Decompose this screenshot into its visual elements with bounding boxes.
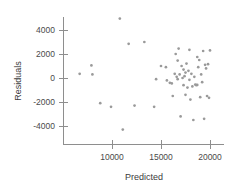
- data-point: [201, 81, 204, 84]
- y-tick-label: 0: [50, 73, 55, 83]
- data-point: [179, 115, 182, 118]
- data-point: [170, 82, 173, 85]
- data-point: [90, 64, 93, 67]
- data-point: [196, 84, 199, 87]
- x-tick-label: 10000: [100, 152, 124, 162]
- data-point: [174, 53, 177, 56]
- y-axis-title: Residuals: [13, 61, 23, 101]
- data-point: [197, 66, 200, 69]
- data-point: [171, 95, 174, 98]
- y-tick-label: -4000: [33, 121, 55, 131]
- data-point: [143, 41, 146, 44]
- scatter-chart: 400020000-2000-4000 100001500020000 Pred…: [0, 0, 233, 187]
- data-point: [165, 66, 168, 69]
- data-point: [153, 105, 156, 108]
- data-point: [182, 84, 185, 87]
- data-point: [121, 128, 124, 131]
- data-point: [191, 85, 194, 88]
- data-point: [208, 96, 211, 99]
- data-point: [133, 104, 136, 107]
- data-point: [192, 119, 195, 122]
- data-point: [187, 69, 190, 72]
- data-point: [110, 105, 113, 108]
- data-point: [209, 49, 212, 52]
- y-axis-ticks: 400020000-2000-4000: [33, 25, 68, 131]
- data-point: [200, 73, 203, 76]
- data-point: [188, 48, 191, 51]
- data-point: [177, 47, 180, 50]
- data-point: [160, 65, 163, 68]
- data-point: [186, 86, 189, 89]
- data-point: [202, 50, 205, 53]
- data-point: [184, 93, 187, 96]
- data-point: [178, 73, 181, 76]
- residual-plot: 400020000-2000-4000 100001500020000 Pred…: [0, 0, 233, 187]
- x-tick-label: 15000: [149, 152, 173, 162]
- data-point: [91, 73, 94, 76]
- data-point: [176, 78, 179, 81]
- data-point: [207, 63, 210, 66]
- data-point: [180, 65, 183, 68]
- y-tick-label: -2000: [33, 97, 55, 107]
- data-point: [183, 75, 186, 78]
- data-point: [118, 17, 121, 20]
- y-tick-label: 2000: [36, 49, 55, 59]
- data-point: [189, 98, 192, 101]
- y-tick-label: 4000: [36, 25, 55, 35]
- data-points: [78, 17, 211, 131]
- data-point: [127, 42, 130, 45]
- data-point: [185, 62, 188, 65]
- x-axis-title: Predicted: [125, 172, 163, 182]
- data-point: [173, 72, 176, 75]
- data-point: [182, 68, 185, 71]
- data-point: [190, 72, 193, 75]
- data-point: [193, 75, 196, 78]
- x-axis-ticks: 100001500020000: [100, 140, 222, 162]
- data-point: [203, 117, 206, 120]
- data-point: [78, 72, 81, 75]
- data-point: [198, 59, 201, 62]
- data-point: [155, 78, 158, 81]
- x-tick-label: 20000: [198, 152, 222, 162]
- data-point: [196, 56, 199, 59]
- data-point: [199, 96, 202, 99]
- data-point: [204, 63, 207, 66]
- data-point: [166, 79, 169, 82]
- data-point: [99, 102, 102, 105]
- data-point: [205, 67, 208, 70]
- data-point: [184, 71, 187, 74]
- data-point: [176, 59, 179, 62]
- data-point: [175, 75, 178, 78]
- data-point: [188, 78, 191, 81]
